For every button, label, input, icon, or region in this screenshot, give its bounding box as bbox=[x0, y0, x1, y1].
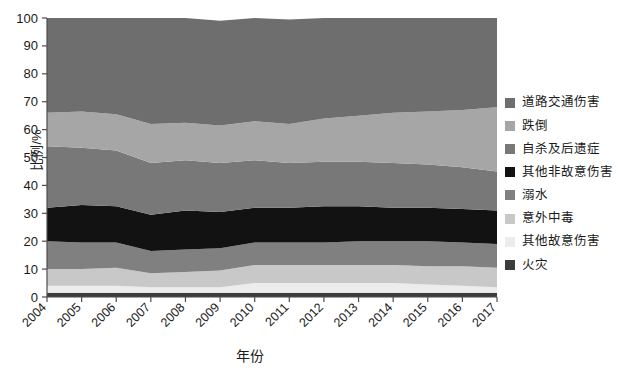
area-band bbox=[47, 18, 497, 125]
legend-item[interactable]: 跌倒 bbox=[505, 114, 625, 137]
legend-item-label: 其他故意伤害 bbox=[522, 235, 600, 248]
legend-item-label: 跌倒 bbox=[522, 120, 548, 133]
x-tick-label: 2013 bbox=[331, 300, 361, 330]
y-tick-label: 10 bbox=[24, 262, 38, 277]
legend-swatch-icon bbox=[505, 190, 515, 200]
y-tick-label: 90 bbox=[24, 38, 38, 53]
x-tick-label: 2014 bbox=[366, 300, 396, 330]
y-tick-label: 80 bbox=[24, 66, 38, 81]
x-axis-title: 年份 bbox=[0, 345, 500, 365]
area-band bbox=[47, 293, 497, 297]
legend-item-label: 自杀及后遗症 bbox=[522, 143, 600, 156]
legend-item[interactable]: 其他非故意伤害 bbox=[505, 161, 625, 184]
y-tick-label: 70 bbox=[24, 94, 38, 109]
x-tick-label: 2017 bbox=[470, 300, 500, 330]
x-tick-label: 2008 bbox=[158, 300, 188, 330]
x-tick-label: 2004 bbox=[20, 300, 50, 330]
y-axis-title: 比例/% bbox=[26, 110, 45, 190]
legend-item-label: 火灾 bbox=[522, 259, 548, 272]
legend-item[interactable]: 道路交通伤害 bbox=[505, 91, 625, 114]
legend-item-label: 溺水 bbox=[522, 189, 548, 202]
legend-swatch-icon bbox=[505, 144, 515, 154]
legend-item[interactable]: 意外中毒 bbox=[505, 207, 625, 230]
x-tick-label: 2015 bbox=[400, 300, 430, 330]
legend-swatch-icon bbox=[505, 121, 515, 131]
legend-item[interactable]: 其他故意伤害 bbox=[505, 230, 625, 253]
x-tick-label: 2012 bbox=[296, 300, 326, 330]
legend-swatch-icon bbox=[505, 98, 515, 108]
stacked-area-chart: 比例/% 年份 01020304050607080901002004200520… bbox=[0, 0, 628, 372]
chart-legend: 道路交通伤害跌倒自杀及后遗症其他非故意伤害溺水意外中毒其他故意伤害火灾 bbox=[505, 91, 625, 277]
legend-item-label: 意外中毒 bbox=[522, 212, 574, 225]
x-tick-label: 2009 bbox=[193, 300, 223, 330]
legend-item-label: 其他非故意伤害 bbox=[522, 166, 613, 179]
legend-swatch-icon bbox=[505, 260, 515, 270]
x-tick-label: 2007 bbox=[123, 300, 153, 330]
legend-item[interactable]: 自杀及后遗症 bbox=[505, 137, 625, 160]
legend-swatch-icon bbox=[505, 237, 515, 247]
legend-swatch-icon bbox=[505, 167, 515, 177]
y-tick-label: 30 bbox=[24, 206, 38, 221]
x-tick-label: 2005 bbox=[54, 300, 84, 330]
legend-item-label: 道路交通伤害 bbox=[522, 96, 600, 109]
x-tick-label: 2016 bbox=[435, 300, 465, 330]
legend-item[interactable]: 溺水 bbox=[505, 184, 625, 207]
x-tick-label: 2011 bbox=[263, 300, 292, 329]
x-tick-label: 2006 bbox=[89, 300, 119, 330]
legend-swatch-icon bbox=[505, 214, 515, 224]
legend-item[interactable]: 火灾 bbox=[505, 253, 625, 276]
y-tick-label: 100 bbox=[16, 11, 38, 26]
y-tick-label: 20 bbox=[24, 234, 38, 249]
x-tick-label: 2010 bbox=[227, 300, 257, 330]
